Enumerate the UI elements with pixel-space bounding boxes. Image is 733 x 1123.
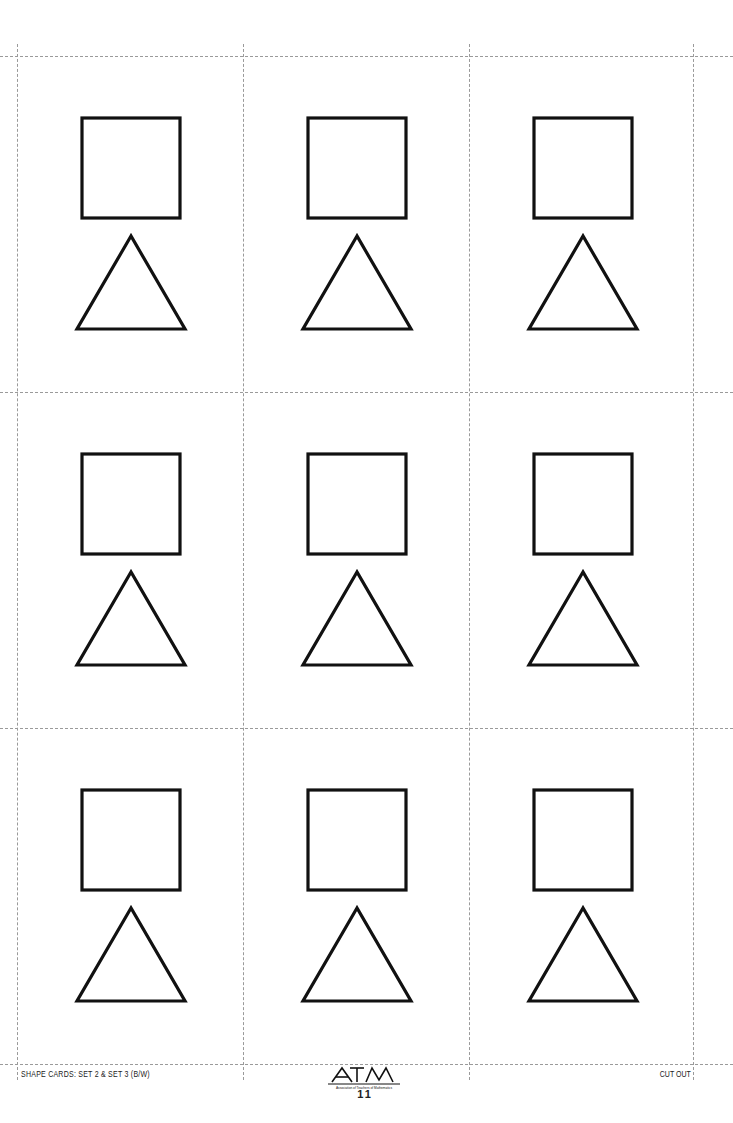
triangle-shape	[529, 572, 637, 665]
shape-card	[17, 392, 243, 728]
atm-logo: Association of Teachers of Mathematics	[326, 1066, 406, 1090]
triangle-shape	[303, 572, 411, 665]
cut-out-label: CUT OUT	[660, 1069, 691, 1079]
shape-card	[243, 728, 469, 1064]
sheet-title: SHAPE CARDS: SET 2 & SET 3 (B/W)	[21, 1069, 150, 1079]
shape-card	[469, 728, 695, 1064]
square-shape	[308, 118, 406, 218]
square-shape	[534, 454, 632, 554]
shape-card	[469, 56, 695, 392]
triangle-shape	[303, 236, 411, 329]
triangle-shape	[77, 908, 185, 1001]
square-shape	[82, 454, 180, 554]
triangle-shape	[303, 908, 411, 1001]
cut-line-bottom	[0, 1064, 733, 1065]
shape-card	[243, 392, 469, 728]
shape-card	[469, 392, 695, 728]
triangle-shape	[529, 908, 637, 1001]
triangle-shape	[529, 236, 637, 329]
shape-card	[17, 728, 243, 1064]
atm-logo-icon: Association of Teachers of Mathematics	[326, 1066, 406, 1090]
page-number: 11	[350, 1088, 380, 1100]
shape-card	[243, 56, 469, 392]
square-shape	[82, 790, 180, 890]
square-shape	[308, 790, 406, 890]
square-shape	[534, 790, 632, 890]
triangle-shape	[77, 236, 185, 329]
square-shape	[308, 454, 406, 554]
triangle-shape	[77, 572, 185, 665]
square-shape	[82, 118, 180, 218]
shape-card	[17, 56, 243, 392]
square-shape	[534, 118, 632, 218]
